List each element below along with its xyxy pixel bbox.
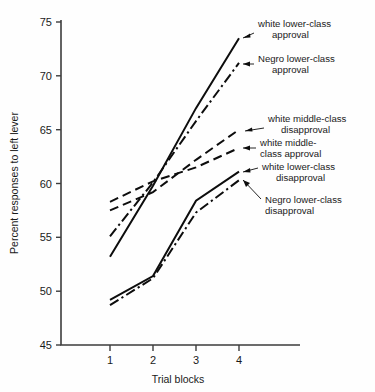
annotation-label-white-lower-class-disapproval-line2: disapproval: [276, 172, 325, 183]
series-line-white-lower-class-approval: [110, 38, 239, 257]
y-tick-label: 75: [40, 16, 52, 28]
line-chart-plot: 75 70 65 60 55 50 45 1 2 3 4 Trial block…: [0, 0, 375, 392]
series-line-white-lower-class-disapproval: [110, 172, 239, 300]
chart-figure: 75 70 65 60 55 50 45 1 2 3 4 Trial block…: [0, 0, 375, 392]
y-tick-label: 45: [40, 339, 52, 351]
x-tick-label: 2: [150, 354, 156, 366]
series-line-negro-lower-class-approval: [110, 63, 239, 236]
chart-axes: [61, 20, 300, 345]
annotation-label-white-middle-class-disapproval-line2: disapproval: [281, 124, 330, 135]
annotation-label-white-middle-class-approval-line1: white middle-: [259, 137, 317, 148]
y-axis-tick-labels: 75 70 65 60 55 50 45: [40, 16, 52, 351]
annotation-label-white-lower-class-approval-line1: white lower-class: [257, 18, 331, 29]
arrowhead-icon: [243, 168, 251, 173]
x-axis-ticks: [110, 345, 239, 351]
annotation-label-white-lower-class-approval-line2: approval: [272, 29, 309, 40]
y-axis-title: Percent responses to left lever: [8, 112, 20, 254]
series-line-negro-lower-class-disapproval: [110, 180, 239, 305]
arrowhead-icon: [243, 62, 250, 67]
y-tick-label: 70: [40, 70, 52, 82]
arrowhead-icon: [245, 128, 253, 132]
annotation-label-negro-lower-class-disapproval-line1: Negro lower-class: [265, 194, 342, 205]
x-tick-label: 4: [236, 354, 242, 366]
series-line-white-middle-class-disapproval: [110, 130, 239, 211]
y-tick-label: 65: [40, 124, 52, 136]
y-tick-label: 60: [40, 178, 52, 190]
x-tick-label: 3: [193, 354, 199, 366]
annotation-label-white-middle-class-disapproval-line1: white middle-class: [267, 113, 347, 124]
y-tick-label: 50: [40, 285, 52, 297]
data-series-group: [110, 38, 239, 305]
y-tick-label: 55: [40, 231, 52, 243]
annotation-label-negro-lower-class-disapproval-line2: disapproval: [265, 205, 314, 216]
arrowhead-icon: [243, 146, 250, 151]
annotation-labels: white lower-class approval Negro lower-c…: [257, 18, 347, 216]
annotation-label-white-middle-class-approval-line2: class approval: [260, 148, 321, 159]
arrowhead-icon: [243, 34, 251, 39]
annotation-label-negro-lower-class-approval-line2: approval: [272, 64, 309, 75]
x-axis-title: Trial blocks: [152, 373, 205, 385]
x-tick-label: 1: [107, 354, 113, 366]
annotation-label-negro-lower-class-approval-line1: Negro lower-class: [258, 53, 335, 64]
annotation-label-white-lower-class-disapproval-line1: white lower-class: [261, 161, 335, 172]
x-axis-tick-labels: 1 2 3 4: [107, 354, 242, 366]
